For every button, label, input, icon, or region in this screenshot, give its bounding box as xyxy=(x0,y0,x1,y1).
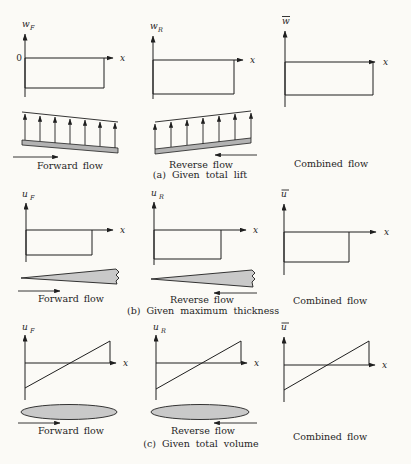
panel-b-reverse: u R x Reverse flow (b) Given maximum thi… xyxy=(127,188,279,316)
panel-a-combined: w x Combined flow xyxy=(282,16,388,169)
y-axis-label-base: w xyxy=(282,16,290,26)
y-axis-label-base: u xyxy=(281,322,287,332)
ubar-step-curve xyxy=(284,232,349,262)
uf-ramp-curve xyxy=(25,341,110,388)
x-axis-label: x xyxy=(382,360,387,370)
y-axis-label-sub: F xyxy=(29,327,35,335)
ur-ramp-curve xyxy=(156,341,241,389)
wedge-body xyxy=(151,270,255,287)
x-axis-label: x xyxy=(250,55,255,65)
figure: w F 0 x Forward flow w R x Reverse flow … xyxy=(0,0,411,464)
wedge-body xyxy=(21,269,119,284)
y-axis-label-base: u xyxy=(153,322,159,332)
y-axis-label-base: w xyxy=(22,19,30,29)
y-axis-label-sub: F xyxy=(29,24,35,32)
uf-step-curve xyxy=(26,230,92,255)
flow-label: Combined flow xyxy=(293,295,367,306)
panel-b-forward: u F x Forward flow xyxy=(18,189,125,304)
panel-c-reverse: u R x Reverse flow (c) Given total volum… xyxy=(143,322,259,449)
figure-canvas: w F 0 x Forward flow w R x Reverse flow … xyxy=(0,0,411,464)
y-axis-label-sub: R xyxy=(157,26,163,34)
flow-label: Combined flow xyxy=(293,431,367,442)
caption-a: (a) Given total lift xyxy=(153,169,248,180)
flow-label: Combined flow xyxy=(294,158,368,169)
ur-step-curve xyxy=(154,230,221,259)
flow-label: Forward flow xyxy=(38,425,104,436)
zero-label: 0 xyxy=(16,53,22,63)
flow-label: Reverse flow xyxy=(170,294,234,305)
x-axis-label: x xyxy=(383,57,388,67)
x-axis-label: x xyxy=(253,225,258,235)
lens-body xyxy=(21,405,117,420)
x-axis-label: x xyxy=(120,53,125,63)
panel-c-forward: u F x Forward flow xyxy=(18,322,128,436)
lens-body xyxy=(151,405,249,420)
y-axis-label-base: u xyxy=(22,189,28,199)
y-axis-label-sub: R xyxy=(158,193,164,201)
y-axis-label-base: u xyxy=(22,322,28,332)
panel-a-forward: w F 0 x Forward flow xyxy=(13,19,125,171)
x-axis-label: x xyxy=(254,358,259,368)
y-axis-label-sub: F xyxy=(29,194,35,202)
x-axis-label: x xyxy=(120,225,125,235)
wbar-step-curve xyxy=(285,62,373,95)
caption-b: (b) Given maximum thickness xyxy=(127,305,279,316)
flow-label: Forward flow xyxy=(38,293,104,304)
panel-b-combined: u x Combined flow xyxy=(281,189,389,306)
y-axis-label-sub: R xyxy=(160,327,166,335)
y-axis-label-base: w xyxy=(150,21,158,31)
caption-c: (c) Given total volume xyxy=(143,438,259,449)
y-axis-label-base: u xyxy=(281,189,287,199)
panel-a-reverse: w R x Reverse flow (a) Given total lift xyxy=(150,21,257,180)
y-axis-label-base: u xyxy=(151,188,157,198)
panel-c-combined: u x Combined flow xyxy=(281,322,387,442)
wr-step-curve xyxy=(153,60,234,94)
wf-step-curve xyxy=(25,58,104,88)
x-axis-label: x xyxy=(384,227,389,237)
x-axis-label: x xyxy=(123,358,128,368)
flow-label: Reverse flow xyxy=(171,425,235,436)
flow-label: Forward flow xyxy=(37,160,103,171)
